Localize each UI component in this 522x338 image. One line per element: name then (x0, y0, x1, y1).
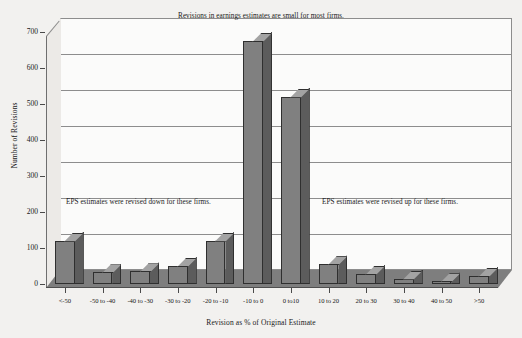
y-tick-label: 100 (8, 244, 38, 252)
bar (168, 266, 188, 284)
x-tick-mark (216, 288, 217, 293)
bar-side-face (301, 88, 310, 284)
annotation-revised-up: EPS estimates were revised up for these … (322, 198, 458, 206)
bar (93, 272, 113, 284)
y-tick-mark (40, 248, 45, 249)
bar-side-face (263, 32, 272, 284)
x-tick-mark (329, 288, 330, 293)
x-tick-label: >50 (449, 297, 509, 304)
bar-front-face (130, 271, 150, 284)
bar (243, 41, 263, 284)
bar-front-face (319, 264, 339, 284)
bar (206, 241, 226, 284)
y-tick-mark (40, 176, 45, 177)
bar-front-face (281, 97, 301, 284)
y-tick-label: 300 (8, 172, 38, 180)
y-tick-mark (40, 32, 45, 33)
y-tick-label: 0 (8, 280, 38, 288)
x-tick-mark (479, 288, 480, 293)
x-tick-mark (404, 288, 405, 293)
y-tick-label: 700 (8, 28, 38, 36)
y-tick-mark (40, 104, 45, 105)
bar (469, 276, 489, 284)
bar (394, 279, 414, 284)
x-tick-mark (253, 288, 254, 293)
bar-series (46, 18, 512, 288)
bar-front-face (356, 274, 376, 284)
annotation-revised-down: EPS estimates were revised down for thes… (66, 198, 211, 206)
y-tick-label: 500 (8, 100, 38, 108)
bar (55, 241, 75, 284)
bar-front-face (93, 272, 113, 284)
annotation-top: Revisions in earnings estimates are smal… (178, 12, 344, 20)
bar-front-face (243, 41, 263, 284)
bar (130, 271, 150, 284)
x-tick-mark (178, 288, 179, 293)
bar (281, 97, 301, 284)
bar (319, 264, 339, 284)
x-axis-title: Revision as % of Original Estimate (0, 318, 522, 327)
y-tick-label: 400 (8, 136, 38, 144)
bar (356, 274, 376, 284)
bar-front-face (55, 241, 75, 284)
x-tick-mark (140, 288, 141, 293)
y-tick-mark (40, 284, 45, 285)
x-tick-mark (103, 288, 104, 293)
bar-front-face (206, 241, 226, 284)
plot-area (46, 18, 512, 288)
bar-front-face (168, 266, 188, 284)
x-tick-mark (442, 288, 443, 293)
chart-container: Number of Revisions 01002003004005006007… (0, 0, 522, 338)
x-tick-mark (291, 288, 292, 293)
x-tick-mark (65, 288, 66, 293)
y-tick-mark (40, 212, 45, 213)
x-tick-mark (366, 288, 367, 293)
y-tick-label: 600 (8, 64, 38, 72)
bar (432, 281, 452, 284)
y-tick-mark (40, 68, 45, 69)
bar-front-face (469, 276, 489, 284)
y-tick-mark (40, 140, 45, 141)
y-tick-label: 200 (8, 208, 38, 216)
